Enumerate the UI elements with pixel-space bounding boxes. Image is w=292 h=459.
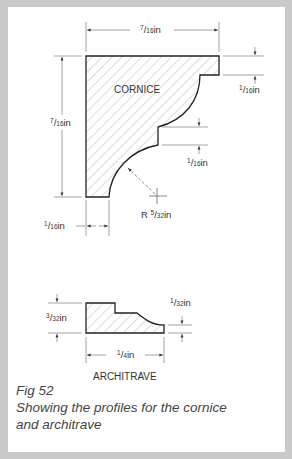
- architrave-width-label: 1/4in: [117, 349, 134, 360]
- cornice-profile: [86, 56, 219, 197]
- architrave-title: ARCHITRAVE: [93, 371, 157, 382]
- figure-number: Fig 52: [16, 382, 278, 399]
- architrave-width-dimension: [86, 337, 164, 363]
- architrave-step-label: 1/32in: [170, 297, 191, 308]
- cornice-height-label: 7/16in: [50, 117, 71, 128]
- cornice-foot-dimension: [76, 200, 109, 236]
- cornice-top-step-label: 1/16in: [239, 84, 260, 95]
- cornice-middle-step-label: 1/16in: [187, 157, 208, 168]
- cornice-radius-leader: [128, 168, 167, 204]
- architrave-step-dimension: [168, 316, 192, 342]
- architrave-height-label: 3/32in: [46, 312, 67, 323]
- figure-description-line-2: and architrave: [16, 416, 278, 433]
- cornice-width-label: 7/16in: [140, 24, 161, 35]
- cornice-foot-label: 1/16in: [44, 220, 65, 231]
- figure-caption: Fig 52 Showing the profiles for the corn…: [16, 382, 278, 433]
- cornice-title: CORNICE: [114, 84, 160, 95]
- figure-description-line-1: Showing the profiles for the cornice: [16, 399, 278, 416]
- cornice-top-step-dimension: [223, 47, 264, 84]
- architrave-profile: [86, 303, 164, 333]
- cornice-radius-label: R 5/32in: [141, 209, 171, 220]
